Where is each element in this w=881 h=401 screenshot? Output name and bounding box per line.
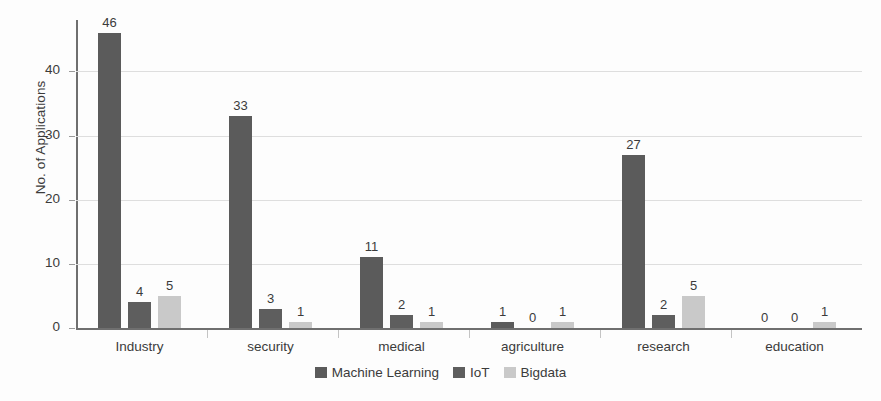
bar-bigdata-security[interactable]: 1 [289,322,312,328]
bar-value-label: 1 [297,304,304,319]
bar-value-label: 2 [660,297,667,312]
y-axis-tick-mark [69,264,75,265]
legend-item-machine-learning[interactable]: Machine Learning [315,365,439,380]
y-axis-tick-label: 20 [18,191,60,206]
bar-machine-learning-security[interactable]: 33 [229,116,252,328]
x-axis-separator [469,330,470,338]
x-axis-label-education: education [765,339,824,354]
bar-value-label: 5 [166,278,173,293]
x-axis-label-security: security [247,339,294,354]
legend-swatch-icon [315,367,327,378]
y-axis-tick-label: 30 [18,127,60,142]
bar-bigdata-agriculture[interactable]: 1 [551,322,574,328]
bar-value-label: 3 [267,291,274,306]
x-axis-label-agriculture: agriculture [501,339,564,354]
bar-machine-learning-medical[interactable]: 11 [360,257,383,328]
y-axis-tick-label: 0 [18,319,60,334]
bar-iot-medical[interactable]: 2 [390,315,413,328]
x-axis-label-industry: Industry [115,339,163,354]
bar-value-label: 1 [821,304,828,319]
bar-value-label: 33 [233,98,247,113]
x-axis-separator [207,330,208,338]
legend-swatch-icon [504,367,516,378]
bar-machine-learning-agriculture[interactable]: 1 [491,322,514,328]
bar-value-label: 11 [365,239,379,254]
legend-item-iot[interactable]: IoT [453,365,490,380]
bar-machine-learning-industry[interactable]: 46 [98,33,121,328]
bar-value-label: 1 [499,304,506,319]
bar-value-label: 27 [626,137,640,152]
bar-iot-industry[interactable]: 4 [128,302,151,328]
bar-value-label: 4 [136,284,143,299]
bar-chart: No. of Applications 01020304046453331112… [0,0,881,401]
chart-legend: Machine LearningIoTBigdata [0,365,881,380]
y-axis-tick-label: 10 [18,255,60,270]
legend-label: Machine Learning [332,365,439,380]
bar-value-label: 0 [761,310,768,325]
bar-bigdata-education[interactable]: 1 [813,322,836,328]
y-axis-tick-mark [69,71,75,72]
bar-value-label: 0 [529,310,536,325]
y-axis-tick-label: 40 [18,62,60,77]
bar-value-label: 0 [791,310,798,325]
bar-bigdata-medical[interactable]: 1 [420,322,443,328]
bar-value-label: 5 [690,278,697,293]
legend-label: Bigdata [521,365,567,380]
x-axis-label-medical: medical [378,339,425,354]
legend-label: IoT [470,365,490,380]
gridline [76,136,862,137]
y-axis-tick-mark [69,328,75,329]
bar-value-label: 2 [398,297,405,312]
legend-swatch-icon [453,367,465,378]
bar-value-label: 1 [559,304,566,319]
plot-area: 0102030404645333111211012725001 [76,20,862,328]
x-axis-label-research: research [637,339,690,354]
bar-bigdata-industry[interactable]: 5 [158,296,181,328]
gridline [76,264,862,265]
bar-iot-research[interactable]: 2 [652,315,675,328]
bar-value-label: 46 [102,15,116,30]
x-axis-separator [600,330,601,338]
gridline [76,71,862,72]
y-axis-tick-mark [69,136,75,137]
x-axis-separator [338,330,339,338]
legend-item-bigdata[interactable]: Bigdata [504,365,567,380]
bar-value-label: 1 [428,304,435,319]
gridline [76,200,862,201]
bar-machine-learning-research[interactable]: 27 [622,155,645,328]
bar-bigdata-research[interactable]: 5 [682,296,705,328]
bar-iot-security[interactable]: 3 [259,309,282,328]
y-axis-tick-mark [69,200,75,201]
x-axis-separator [731,330,732,338]
